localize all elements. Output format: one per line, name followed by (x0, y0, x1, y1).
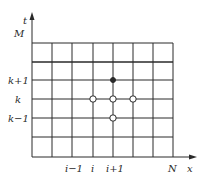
y-end-label: M (13, 28, 25, 39)
col-label-i: i (91, 163, 94, 174)
row-label-k-plus-1: k+1 (8, 75, 29, 86)
x-end-label: N (167, 163, 178, 174)
row-label-k-minus-1: k−1 (8, 113, 29, 124)
node-i-k-minus-1 (110, 115, 116, 121)
x-axis-label: x (187, 163, 193, 174)
node-i-minus-1-k (90, 96, 96, 102)
grid-lines (32, 43, 173, 157)
node-i-k-plus-1 (111, 78, 116, 83)
row-label-k: k (15, 94, 21, 105)
y-axis-label: t (23, 15, 28, 26)
x-axis-arrow-icon (189, 155, 197, 160)
col-label-i-plus-1: i+1 (106, 163, 124, 174)
node-i-plus-1-k (130, 96, 136, 102)
stencil-grid-diagram: t M k+1 k k−1 i−1 i i+1 N x (0, 0, 204, 182)
col-label-i-minus-1: i−1 (65, 163, 83, 174)
node-i-k (110, 96, 116, 102)
y-axis-arrow-icon (30, 12, 35, 20)
